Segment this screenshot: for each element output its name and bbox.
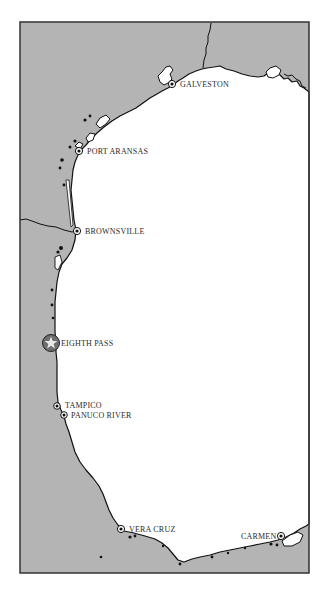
port-marker-vera-cruz[interactable] xyxy=(117,525,124,532)
port-marker-port-aransas[interactable] xyxy=(75,147,82,154)
label-brownsville: BROWNSVILLE xyxy=(85,227,145,236)
port-marker-galveston[interactable] xyxy=(168,80,175,87)
label-eighth-pass: EIGHTH PASS xyxy=(61,339,113,348)
label-panuco-river: PANUCO RIVER xyxy=(71,411,132,420)
inland-dot xyxy=(100,556,103,559)
port-marker-brownsville[interactable] xyxy=(73,227,80,234)
label-port-aransas: PORT ARANSAS xyxy=(87,147,148,156)
eighth-pass-marker[interactable] xyxy=(43,335,60,352)
gulf-of-mexico-map xyxy=(0,0,325,597)
port-marker-carmen[interactable] xyxy=(277,532,284,539)
label-carmen: CARMEN xyxy=(241,532,276,541)
port-marker-tampico[interactable] xyxy=(54,403,61,410)
label-vera-cruz: VERA CRUZ xyxy=(129,525,175,534)
label-tampico: TAMPICO xyxy=(65,401,102,410)
port-marker-panuco-river[interactable] xyxy=(61,412,68,419)
label-galveston: GALVESTON xyxy=(180,80,229,89)
